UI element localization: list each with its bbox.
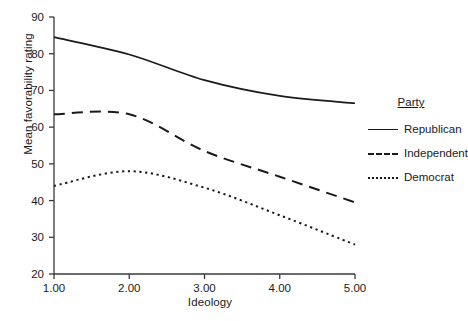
legend-title: Party [380, 96, 442, 108]
x-tick-label: 5.00 [325, 282, 385, 294]
legend-label-democrat: Democrat [404, 171, 454, 183]
y-tick-label: 30 [14, 231, 44, 243]
y-tick-label: 40 [14, 195, 44, 207]
legend-label-independent: Independent [404, 147, 468, 159]
y-tick-label: 60 [14, 121, 44, 133]
x-tick-label: 1.00 [24, 282, 84, 294]
legend-line-dashed-icon [368, 148, 398, 158]
series-line-democrat [54, 171, 355, 244]
legend-label-republican: Republican [404, 123, 462, 135]
x-tick-label: 4.00 [250, 282, 310, 294]
legend-line-dotted-icon [368, 172, 398, 182]
legend-item-independent: Independent [368, 143, 468, 163]
legend-line-solid-icon [368, 124, 398, 134]
y-tick-label: 50 [14, 158, 44, 170]
y-tick-label: 70 [14, 84, 44, 96]
x-axis-title: Ideology [150, 296, 270, 308]
x-tick-label: 2.00 [99, 282, 159, 294]
legend-item-democrat: Democrat [368, 167, 468, 187]
x-tick-label: 3.00 [175, 282, 235, 294]
legend-item-republican: Republican [368, 119, 468, 139]
y-tick-label: 20 [14, 268, 44, 280]
y-tick-label: 90 [14, 11, 44, 23]
legend: Party Republican Independent Democrat [368, 96, 468, 191]
series-line-republican [54, 37, 355, 103]
series-line-independent [54, 112, 355, 203]
y-tick-label: 80 [14, 48, 44, 60]
